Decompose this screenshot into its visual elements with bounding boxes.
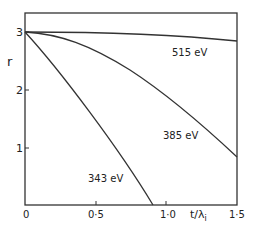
x-tick-label-0: 0: [23, 209, 29, 220]
series-385ev-label: 385 eV: [163, 130, 198, 141]
y-tick-label-1: 1: [16, 142, 23, 155]
x-tick-label-1.5: 1·5: [229, 209, 245, 220]
y-tick-label-3: 3: [16, 26, 23, 39]
chart: 3 2 1 r 0 0·5 1·0 1·5 t/λi 515 eV 385 eV…: [0, 0, 254, 226]
x-axis-label: t/λi: [190, 208, 207, 223]
y-axis-label: r: [7, 54, 13, 69]
plot-frame: [25, 13, 237, 205]
series-343ev-label: 343 eV: [88, 173, 123, 184]
x-tick-label-1.0: 1·0: [160, 209, 176, 220]
y-tick-label-2: 2: [16, 84, 23, 97]
x-tick-label-0.5: 0·5: [88, 209, 104, 220]
series-515ev-label: 515 eV: [172, 47, 207, 58]
